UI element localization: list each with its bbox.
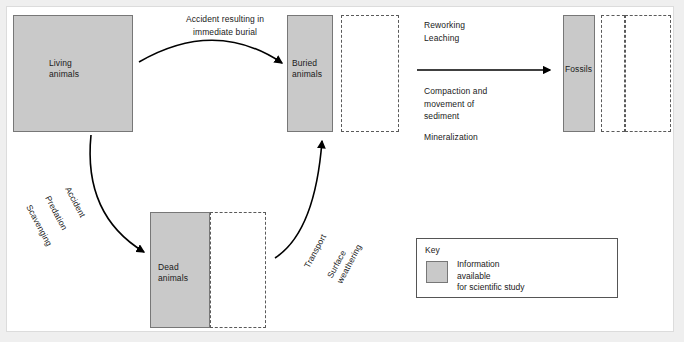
diagram-page: Living animals Buried animals Dead anima… [0,0,684,342]
edge-label-burial: Accident resulting in immediate burial [155,13,295,38]
edge-label-reworking-leaching: Reworking Leaching [424,19,544,44]
edge-label-mineralization: Mineralization [424,131,544,144]
arrow-living-to-buried [139,40,282,63]
node-dead-animals-lost [210,212,266,328]
key-swatch-label: Information available for scientific stu… [457,259,525,294]
node-buried-animals-label: Buried animals [292,58,340,80]
edge-label-compaction: Compaction and movement of sediment [424,85,544,123]
node-living-animals-label: Living animals [49,58,129,80]
node-fossils-label: Fossils [565,64,605,75]
arrow-living-to-dead [90,135,144,252]
node-buried-animals-lost [341,15,399,132]
node-fossils-lost-2 [625,15,671,132]
key-swatch-available [426,261,448,283]
node-dead-animals-label: Dead animals [158,262,213,284]
key-legend: Key Information available for scientific… [416,238,618,298]
key-title: Key [425,245,440,255]
